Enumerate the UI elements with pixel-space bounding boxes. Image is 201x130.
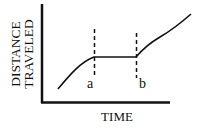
- distance-curve: [58, 14, 191, 89]
- marker-a-label: a: [87, 76, 94, 91]
- y-axis-label-line2: TRAVELED: [21, 19, 36, 89]
- x-axis-label: TIME: [101, 109, 133, 124]
- distance-time-graph: a b TIME DISTANCE TRAVELED: [0, 0, 201, 130]
- marker-b-label: b: [139, 76, 146, 91]
